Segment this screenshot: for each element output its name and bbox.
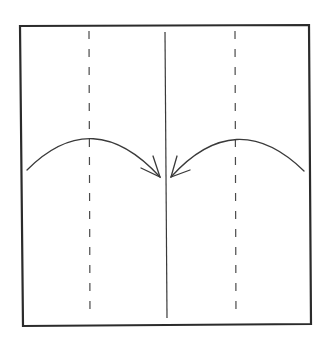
diagram-canvas [0, 0, 326, 351]
origami-fold-diagram: Fold both side edges to the center line [0, 0, 326, 351]
